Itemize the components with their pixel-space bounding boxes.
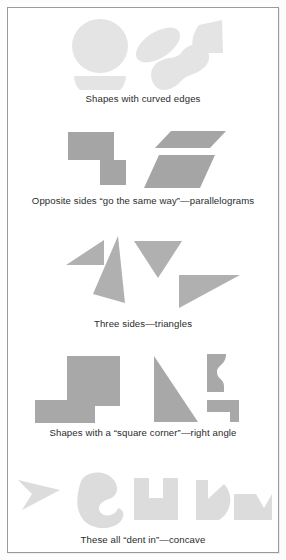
figure-frame: Shapes with curved edges Opposite sides … — [7, 7, 279, 553]
parallelogram-slanted-shape — [144, 155, 215, 188]
rectangle-shape — [35, 400, 95, 423]
u-block-shape — [134, 478, 178, 520]
square-shape — [67, 356, 120, 406]
figure-page: Shapes with curved edges Opposite sides … — [0, 0, 286, 560]
shape-group-right-angle — [8, 343, 278, 423]
section-curved-edges: Shapes with curved edges — [8, 8, 278, 113]
parallelogram-shapes-svg — [8, 120, 278, 192]
square-shape — [100, 160, 126, 185]
shape-group-parallelograms — [8, 120, 278, 192]
wide-right-triangle-shape — [179, 275, 240, 308]
rectangle-shape — [68, 132, 114, 160]
curved-bracket-shape — [207, 354, 226, 392]
caption-concave: These all “dent in”—concave — [8, 534, 278, 546]
concave-shapes-svg — [8, 458, 278, 530]
figure-inner: Shapes with curved edges Opposite sides … — [8, 8, 278, 552]
half-disc-shape — [74, 76, 126, 90]
section-parallelograms: Opposite sides “go the same way”—paralle… — [8, 120, 278, 225]
l-step-shape — [207, 400, 239, 422]
right-triangle-shape — [154, 356, 198, 422]
circle-shape — [72, 19, 128, 73]
caption-triangles: Three sides—triangles — [8, 318, 278, 330]
caption-parallelograms: Opposite sides “go the same way”—paralle… — [8, 195, 278, 207]
blob-curl-shape — [77, 473, 123, 528]
shape-group-curved-edges — [8, 8, 278, 90]
shape-group-concave — [8, 458, 278, 530]
curved-shapes-svg — [8, 8, 278, 90]
small-right-triangle-shape — [66, 240, 104, 265]
notched-block-shape — [234, 494, 272, 520]
parallelogram-wide-shape — [155, 131, 226, 148]
section-right-angle: Shapes with a “square corner”—right angl… — [8, 343, 278, 448]
caption-right-angle: Shapes with a “square corner”—right angl… — [8, 427, 278, 439]
triangle-shapes-svg — [8, 220, 278, 315]
inverted-triangle-shape — [134, 241, 182, 278]
shape-group-triangles — [8, 220, 278, 315]
right-angle-shapes-svg — [8, 343, 278, 423]
arrowhead-dart-shape — [18, 480, 60, 510]
caption-curved-edges: Shapes with curved edges — [8, 93, 278, 105]
section-concave: These all “dent in”—concave — [8, 458, 278, 552]
section-triangles: Three sides—triangles — [8, 220, 278, 335]
pac-shape — [196, 480, 230, 520]
